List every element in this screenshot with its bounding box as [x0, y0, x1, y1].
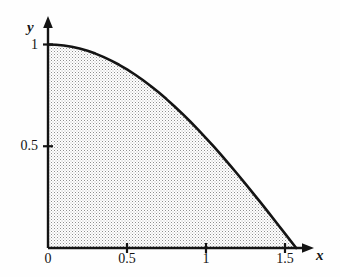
x-axis-label: x: [316, 248, 324, 263]
figure-container: y x 00.511.5 0.51: [0, 0, 340, 277]
x-tick-label: 0: [45, 252, 52, 266]
plot-canvas: [0, 0, 340, 277]
y-tick-label: 1: [0, 38, 38, 52]
x-tick-label: 1.5: [276, 252, 294, 266]
y-axis-label: y: [27, 20, 34, 35]
arrow-right-icon: [302, 243, 314, 253]
arrow-up-icon: [43, 16, 53, 28]
x-tick-label: 1: [203, 252, 210, 266]
shaded-region: [48, 45, 296, 249]
x-tick-label: 0.5: [118, 252, 136, 266]
y-tick-label: 0.5: [0, 139, 38, 153]
